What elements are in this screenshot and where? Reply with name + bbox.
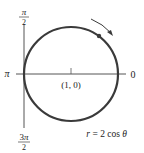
label-center-point: (1, 0) xyxy=(61,80,81,90)
equation-label: r = 2 cos θ xyxy=(86,129,127,139)
label-pi-left: π xyxy=(4,68,10,79)
label-zero-right: 0 xyxy=(131,69,136,80)
label-3pi-over-2-numerator: 3π xyxy=(19,132,29,142)
label-3pi-over-2-denominator: 2 xyxy=(22,143,26,152)
label-pi-over-2-numerator: π xyxy=(22,7,27,17)
polar-plot-svg: π 2 3π 2 π 0 (1, 0) r = 2 cos θ xyxy=(0,0,144,153)
direction-arrow-icon xyxy=(91,19,111,33)
arrowhead-icon xyxy=(107,30,113,36)
label-pi-over-2-denominator: 2 xyxy=(22,18,26,27)
polar-plot-figure: π 2 3π 2 π 0 (1, 0) r = 2 cos θ xyxy=(0,0,144,153)
curve-point-marker xyxy=(97,34,101,38)
